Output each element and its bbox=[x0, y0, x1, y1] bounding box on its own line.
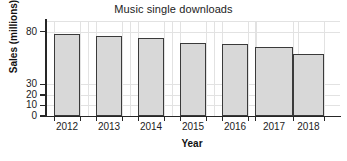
gridline-v-2 bbox=[80, 21, 81, 116]
gridline-h-top bbox=[46, 21, 340, 22]
gridline-v-8 bbox=[164, 21, 165, 116]
x-tick-10 bbox=[255, 116, 256, 121]
x-axis-label: Year bbox=[44, 138, 340, 149]
y-tick-0 bbox=[40, 115, 45, 116]
gridline-v-6 bbox=[130, 21, 131, 116]
bar-2015 bbox=[180, 43, 206, 116]
bar-2014 bbox=[138, 38, 164, 116]
x-tick-label-2013: 2013 bbox=[89, 122, 129, 132]
x-tick-label-2016: 2016 bbox=[215, 122, 255, 132]
y-tick-4 bbox=[40, 31, 45, 32]
x-tick-label-2014: 2014 bbox=[131, 122, 171, 132]
bar-2017 bbox=[255, 47, 293, 116]
gridline-v-3 bbox=[88, 21, 89, 116]
x-tick-label-2018: 2018 bbox=[288, 122, 328, 132]
gridline-v-12 bbox=[214, 21, 215, 116]
x-tick-7 bbox=[206, 116, 207, 121]
x-tick-12 bbox=[293, 116, 294, 121]
bar-2018 bbox=[293, 54, 324, 116]
y-axis-label: Sales (millions) bbox=[8, 0, 19, 80]
bar-2013 bbox=[96, 36, 122, 116]
x-axis-line bbox=[45, 116, 341, 118]
y-tick-label-2: 20 bbox=[11, 90, 37, 100]
y-tick-2 bbox=[40, 94, 45, 95]
x-tick-label-2015: 2015 bbox=[173, 122, 213, 132]
gridline-h-4 bbox=[46, 32, 340, 33]
bar-2012 bbox=[54, 34, 80, 116]
x-tick-5 bbox=[164, 116, 165, 121]
gridline-v-9 bbox=[172, 21, 173, 116]
y-tick-label-4: 80 bbox=[11, 27, 37, 37]
gridline-v-5 bbox=[122, 21, 123, 116]
x-tick-1 bbox=[80, 116, 81, 121]
y-axis-line bbox=[45, 19, 47, 117]
y-tick-label-3: 30 bbox=[11, 79, 37, 89]
y-tick-3 bbox=[40, 84, 45, 85]
x-tick-label-2012: 2012 bbox=[47, 122, 87, 132]
plot-area bbox=[46, 21, 340, 116]
bar-2016 bbox=[222, 44, 248, 116]
bar-chart: Music single downloads Sales (millions) … bbox=[0, 0, 347, 161]
gridline-v-11 bbox=[206, 21, 207, 116]
x-tick-9 bbox=[248, 116, 249, 121]
x-tick-3 bbox=[122, 116, 123, 121]
gridline-v-20 bbox=[324, 21, 325, 116]
chart-title: Music single downloads bbox=[0, 3, 347, 15]
gridline-v-14 bbox=[248, 21, 249, 116]
y-tick-label-1: 10 bbox=[11, 100, 37, 110]
y-tick-1 bbox=[40, 105, 45, 106]
y-tick-label-0: 0 bbox=[11, 111, 37, 121]
x-tick-13 bbox=[324, 116, 325, 121]
